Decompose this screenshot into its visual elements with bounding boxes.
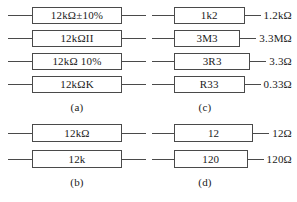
resistor-group-c: 1k2 1.2kΩ 3M3 3.3MΩ 3R3 3.3Ω R33 <box>152 4 292 113</box>
resistor-marking-label: 12kΩ <box>64 128 89 139</box>
resistor-row: 12kΩ 10% <box>8 50 146 73</box>
resistor-body: 12k <box>32 150 122 168</box>
resistor-body: 1k2 <box>174 7 245 24</box>
resistor-marking-label: 1k2 <box>201 10 218 21</box>
resistor-marking-label: 12kΩ 10% <box>52 56 101 67</box>
lead-right <box>122 133 146 134</box>
resistor-row: 1k2 1.2kΩ <box>152 4 292 27</box>
resistor-marking-label: 12k <box>68 154 85 165</box>
resistor-group-d: 12 12Ω 120 120Ω (d) <box>152 120 292 188</box>
lead-left <box>8 84 32 85</box>
lead-right <box>250 61 266 62</box>
lead-left <box>8 15 32 16</box>
resistance-value-label: 1.2kΩ <box>261 10 292 21</box>
lead-left <box>8 133 32 134</box>
resistor-marking-label: R33 <box>200 79 219 90</box>
lead-right <box>122 84 146 85</box>
group-caption: (c) <box>152 102 258 113</box>
resistor-body: 12kΩK <box>32 76 122 93</box>
resistor-row: 12kΩ <box>8 120 146 146</box>
lead-left <box>152 15 174 16</box>
resistor-row: 12kΩ±10% <box>8 4 146 27</box>
resistor-marking-label: 120 <box>202 154 219 165</box>
resistor-row: 12 12Ω <box>152 120 292 146</box>
lead-left <box>8 61 32 62</box>
lead-left <box>152 61 174 62</box>
resistor-body: R33 <box>174 76 245 93</box>
resistor-row: 3M3 3.3MΩ <box>152 27 292 50</box>
resistor-row: R33 0.33Ω <box>152 73 292 96</box>
resistance-value-label: 120Ω <box>264 154 292 165</box>
resistor-marking-label: 12kΩK <box>60 79 94 90</box>
lead-left <box>152 38 174 39</box>
resistor-marking-label: 12kΩII <box>60 33 93 44</box>
resistor-row: 12kΩK <box>8 73 146 96</box>
resistor-body: 120 <box>174 150 248 168</box>
resistor-row: 12k <box>8 146 146 172</box>
resistor-body: 3R3 <box>174 53 250 70</box>
lead-right <box>240 38 256 39</box>
group-caption: (b) <box>8 177 146 188</box>
lead-left <box>8 159 32 160</box>
resistor-marking-figure: 12kΩ±10% 12kΩII 12kΩ 10% 12kΩK (a) <box>0 0 297 202</box>
lead-right <box>253 133 269 134</box>
resistor-group-b: 12kΩ 12k (b) <box>8 120 146 188</box>
resistance-value-label: 0.33Ω <box>261 79 292 90</box>
resistor-marking-label: 12 <box>208 128 219 139</box>
lead-right <box>122 15 146 16</box>
lead-right <box>245 84 261 85</box>
resistor-marking-label: 3R3 <box>203 56 222 67</box>
resistor-row: 3R3 3.3Ω <box>152 50 292 73</box>
resistance-value-label: 3.3Ω <box>266 56 292 67</box>
resistor-body: 12 <box>174 124 253 142</box>
resistor-row: 120 120Ω <box>152 146 292 172</box>
resistor-marking-label: 12kΩ±10% <box>51 10 103 21</box>
resistor-group-a: 12kΩ±10% 12kΩII 12kΩ 10% 12kΩK (a) <box>8 4 146 113</box>
group-caption: (d) <box>152 177 258 188</box>
resistor-body: 12kΩ <box>32 124 122 142</box>
resistor-body: 12kΩII <box>32 30 122 47</box>
lead-left <box>152 133 174 134</box>
resistor-body: 12kΩ±10% <box>32 7 122 24</box>
resistor-body: 12kΩ 10% <box>32 53 122 70</box>
resistance-value-label: 3.3MΩ <box>256 33 292 44</box>
resistor-row: 12kΩII <box>8 27 146 50</box>
group-caption: (a) <box>8 102 146 113</box>
resistance-value-label: 12Ω <box>269 128 292 139</box>
resistor-marking-label: 3M3 <box>196 33 217 44</box>
lead-right <box>122 61 146 62</box>
lead-left <box>152 84 174 85</box>
lead-left <box>152 159 174 160</box>
lead-right <box>245 15 261 16</box>
lead-right <box>122 159 146 160</box>
lead-right <box>122 38 146 39</box>
lead-left <box>8 38 32 39</box>
resistor-body: 3M3 <box>174 30 240 47</box>
lead-right <box>248 159 264 160</box>
